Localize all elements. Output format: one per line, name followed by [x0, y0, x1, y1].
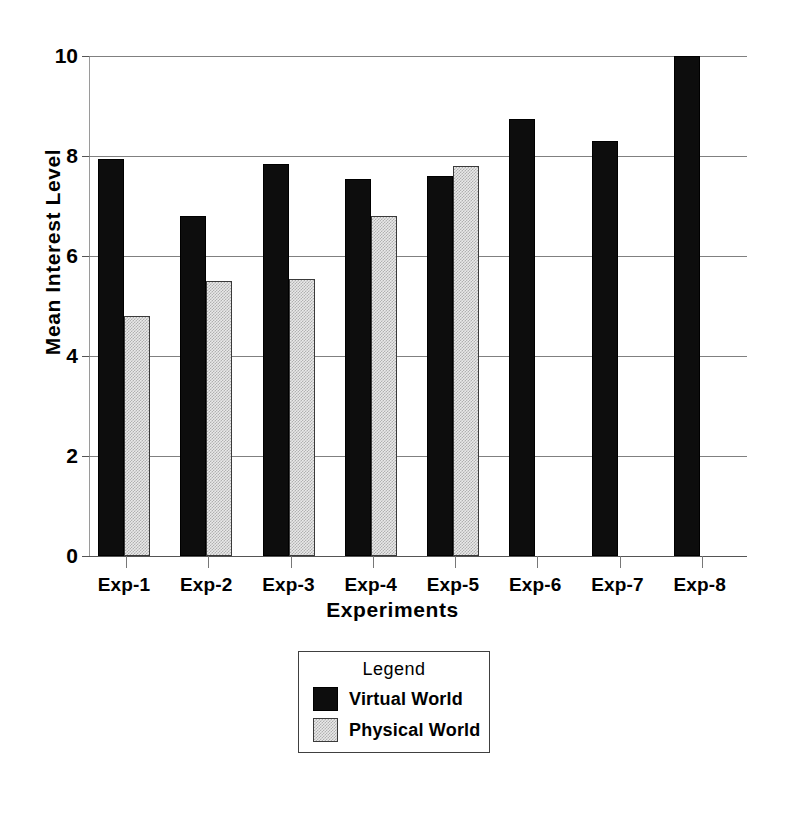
legend-item-label: Virtual World	[349, 689, 463, 710]
bar-exp-4-physical-world	[371, 216, 397, 556]
y-tick-label: 6	[66, 244, 78, 268]
legend-title: Legend	[299, 659, 489, 680]
y-tick-mark	[82, 156, 89, 157]
x-tick-mark	[208, 556, 209, 568]
bar-chart-figure: Mean Interest Level 0246810 Exp-1Exp-2Ex…	[0, 0, 785, 815]
x-tick-label-exp-5: Exp-5	[427, 574, 480, 596]
y-axis-title: Mean Interest Level	[41, 137, 65, 367]
y-tick-mark	[82, 356, 89, 357]
y-tick-mark	[82, 456, 89, 457]
bar-exp-6-virtual-world	[509, 119, 535, 557]
y-tick-label: 4	[66, 344, 78, 368]
bar-exp-1-physical-world	[124, 316, 150, 556]
y-tick-label: 10	[55, 44, 78, 68]
legend: Legend Virtual World Physical World	[298, 651, 490, 753]
x-tick-mark	[455, 556, 456, 568]
x-tick-mark	[702, 556, 703, 568]
plot-area: 0246810 Exp-1Exp-2Exp-3Exp-4Exp-5Exp-6Ex…	[89, 56, 747, 556]
legend-swatch-icon	[313, 687, 338, 711]
legend-item-label: Physical World	[349, 720, 481, 741]
gridline	[89, 156, 747, 157]
bar-exp-5-physical-world	[453, 166, 479, 556]
y-tick-label: 8	[66, 144, 78, 168]
y-tick-label: 0	[66, 544, 78, 568]
bar-exp-5-virtual-world	[427, 176, 453, 556]
bar-exp-3-physical-world	[289, 279, 315, 557]
x-tick-label-exp-6: Exp-6	[509, 574, 562, 596]
x-tick-label-exp-2: Exp-2	[180, 574, 233, 596]
legend-item-virtual-world: Virtual World	[313, 687, 463, 711]
legend-item-physical-world: Physical World	[313, 718, 481, 742]
y-tick-mark	[82, 256, 89, 257]
bar-exp-4-virtual-world	[345, 179, 371, 557]
x-tick-label-exp-8: Exp-8	[673, 574, 726, 596]
x-tick-label-exp-1: Exp-1	[98, 574, 151, 596]
bar-exp-2-physical-world	[206, 281, 232, 556]
gridline	[89, 556, 747, 557]
bar-exp-1-virtual-world	[98, 159, 124, 557]
bar-exp-2-virtual-world	[180, 216, 206, 556]
bar-exp-3-virtual-world	[263, 164, 289, 557]
bar-exp-7-virtual-world	[592, 141, 618, 556]
y-tick-mark	[82, 556, 89, 557]
x-tick-mark	[291, 556, 292, 568]
x-axis-title: Experiments	[0, 598, 785, 622]
y-tick-mark	[82, 56, 89, 57]
y-tick-label: 2	[66, 444, 78, 468]
x-tick-label-exp-3: Exp-3	[262, 574, 315, 596]
legend-swatch-icon	[313, 718, 338, 742]
x-tick-label-exp-7: Exp-7	[591, 574, 644, 596]
x-tick-mark	[620, 556, 621, 568]
gridline	[89, 56, 747, 57]
x-tick-mark	[537, 556, 538, 568]
bar-exp-8-virtual-world	[674, 56, 700, 556]
x-tick-mark	[373, 556, 374, 568]
x-tick-mark	[126, 556, 127, 568]
x-tick-label-exp-4: Exp-4	[344, 574, 397, 596]
